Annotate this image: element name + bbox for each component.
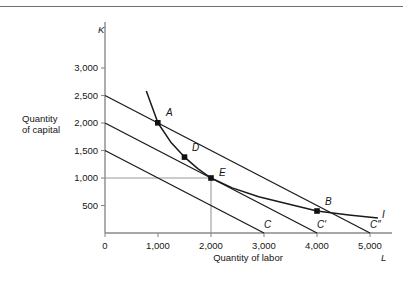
y-axis-symbol: K — [98, 24, 104, 35]
y-tick-label-1000: 1,000 — [58, 172, 98, 183]
isocost-line-c — [105, 151, 264, 234]
point-label-d: D — [192, 142, 199, 153]
data-point-e — [208, 175, 214, 181]
y-tick-label-1500: 1,500 — [58, 145, 98, 156]
isocost-label-c-double-prime: C″ — [370, 219, 381, 230]
y-tick-label-2000: 2,000 — [58, 117, 98, 128]
isocost-label-c-prime: C′ — [317, 219, 326, 230]
x-tick-label-2000: 2,000 — [191, 240, 231, 251]
x-axis-title: Quantity of labor — [188, 252, 308, 263]
isoquant-curve-i — [146, 91, 378, 218]
x-tick-label-4000: 4,000 — [297, 240, 337, 251]
point-label-a: A — [166, 107, 173, 118]
y-tick-label-500: 500 — [58, 200, 98, 211]
isoquant-isocost-figure: K L Quantity of capital Quantity of labo… — [0, 0, 403, 282]
isoquant-label-i: I — [382, 209, 385, 220]
x-tick-label-1000: 1,000 — [138, 240, 178, 251]
y-tick-label-3000: 3,000 — [58, 62, 98, 73]
data-point-d — [182, 154, 188, 160]
point-label-b: B — [325, 196, 332, 207]
x-axis-symbol: L — [381, 252, 386, 263]
data-point-b — [314, 208, 320, 214]
isocost-label-c: C — [264, 219, 271, 230]
x-tick-label-3000: 3,000 — [244, 240, 284, 251]
point-label-e: E — [219, 167, 226, 178]
data-point-a — [155, 120, 161, 126]
x-tick-label-0: 0 — [85, 240, 125, 251]
y-tick-label-2500: 2,500 — [58, 90, 98, 101]
x-tick-label-5000: 5,000 — [350, 240, 390, 251]
